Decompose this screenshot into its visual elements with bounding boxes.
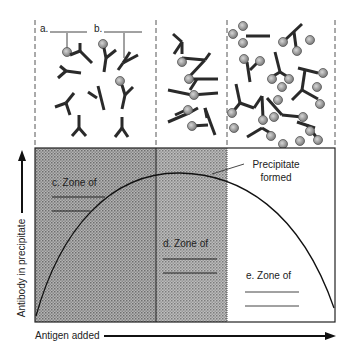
arrow-right-icon <box>325 332 336 340</box>
top-panels <box>35 20 335 149</box>
antigen-excess-antigens <box>228 22 328 149</box>
curve-annotation: Precipitate formed <box>246 158 306 184</box>
zone-d-label: d. Zone of <box>163 239 208 249</box>
x-axis-label: Antigen added <box>35 331 100 341</box>
blank-a-label: a. <box>40 24 48 34</box>
zone-c-fill <box>35 148 156 322</box>
zone-e-label: e. Zone of <box>246 271 291 281</box>
arrow-up-icon <box>18 150 26 161</box>
curve-annotation-text: Precipitate formed <box>246 158 306 184</box>
blank-b-label: b. <box>94 24 102 34</box>
antibody-excess-panel <box>55 40 138 138</box>
equivalence-panel <box>168 34 218 135</box>
zone-c-label: c. Zone of <box>52 178 96 188</box>
y-axis-label: Antibody in precipitate <box>17 219 27 317</box>
